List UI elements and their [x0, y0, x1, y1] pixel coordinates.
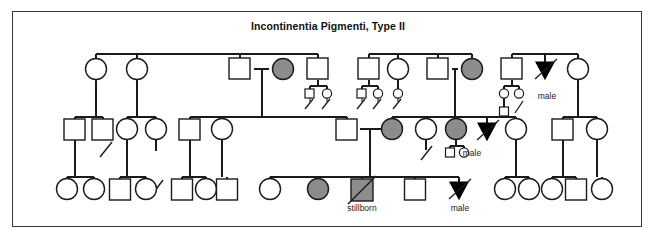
pregnancy-loss-circle[interactable] [393, 89, 402, 98]
person-square-unaffected[interactable] [427, 58, 448, 79]
caption-stillborn: stillborn [347, 203, 376, 213]
pedigree-diagram-canvas [0, 0, 656, 240]
person-square-unaffected[interactable] [64, 119, 85, 140]
pedigree-chart-root: Incontinentia Pigmenti, Type II [0, 0, 656, 240]
person-circle-unaffected[interactable] [84, 179, 105, 200]
person-circle-unaffected[interactable] [136, 179, 157, 200]
pregnancy-loss-circle[interactable] [514, 89, 523, 98]
generation-3-group [57, 176, 613, 204]
deceased-slash [100, 142, 112, 157]
person-circle-unaffected[interactable] [117, 119, 138, 140]
person-circle-unaffected[interactable] [495, 179, 516, 200]
person-circle-unaffected[interactable] [506, 119, 527, 140]
person-circle-unaffected[interactable] [519, 179, 540, 200]
deceased-slash [515, 101, 523, 113]
person-triangle-deceased-male[interactable] [477, 120, 499, 140]
person-circle-unaffected[interactable] [568, 59, 589, 80]
person-circle-affected[interactable] [308, 179, 329, 200]
deceased-slash [373, 99, 381, 109]
person-circle-unaffected[interactable] [196, 179, 217, 200]
person-square-unaffected[interactable] [566, 179, 587, 200]
person-square-unaffected[interactable] [501, 58, 522, 79]
caption-male-g2-right: male [463, 148, 481, 158]
person-circle-unaffected[interactable] [592, 179, 613, 200]
person-circle-affected[interactable] [382, 119, 403, 140]
deceased-slash [357, 99, 365, 109]
person-circle-unaffected[interactable] [260, 179, 281, 200]
pregnancy-loss-group [305, 89, 524, 116]
pregnancy-loss-square[interactable] [357, 89, 366, 98]
person-circle-unaffected[interactable] [86, 59, 107, 80]
person-circle-affected[interactable] [446, 119, 467, 140]
person-square-unaffected[interactable] [405, 179, 426, 200]
person-circle-deceased[interactable] [146, 119, 167, 140]
person-triangle-deceased-male[interactable] [449, 179, 471, 199]
person-square-unaffected[interactable] [552, 119, 573, 140]
person-square-deceased[interactable] [92, 119, 113, 140]
person-square-unaffected[interactable] [217, 179, 238, 200]
deceased-slash [322, 99, 330, 109]
person-square-unaffected[interactable] [179, 119, 200, 140]
deceased-slash [305, 99, 313, 109]
person-square-unaffected[interactable] [307, 58, 328, 79]
pregnancy-loss-square[interactable] [305, 89, 314, 98]
pregnancy-loss-circle[interactable] [322, 89, 331, 98]
person-circle-unaffected[interactable] [416, 119, 437, 140]
person-square-stillborn[interactable] [348, 176, 376, 204]
generation-1-group [86, 58, 589, 116]
person-circle-unaffected[interactable] [388, 59, 409, 80]
pregnancy-loss-square[interactable] [446, 148, 455, 157]
person-square-unaffected[interactable] [172, 179, 193, 200]
pregnancy-loss-square[interactable] [500, 107, 509, 116]
person-circle-affected[interactable] [462, 59, 483, 80]
person-triangle-deceased-male[interactable] [535, 59, 557, 79]
pregnancy-loss-circle[interactable] [499, 89, 508, 98]
person-circle-unaffected[interactable] [57, 179, 78, 200]
person-circle-unaffected[interactable] [212, 119, 233, 140]
person-square-unaffected[interactable] [336, 119, 357, 140]
person-circle-unaffected[interactable] [542, 179, 563, 200]
caption-male-g1-right: male [538, 91, 556, 101]
person-circle-unaffected[interactable] [127, 59, 148, 80]
person-square-unaffected[interactable] [229, 58, 250, 79]
person-square-unaffected[interactable] [110, 179, 131, 200]
person-circle-unaffected[interactable] [587, 119, 608, 140]
person-circle-affected[interactable] [273, 59, 294, 80]
person-square-unaffected[interactable] [358, 58, 379, 79]
deceased-slash [393, 99, 401, 109]
caption-male-bottom: male [451, 203, 469, 213]
pregnancy-loss-circle[interactable] [373, 89, 382, 98]
